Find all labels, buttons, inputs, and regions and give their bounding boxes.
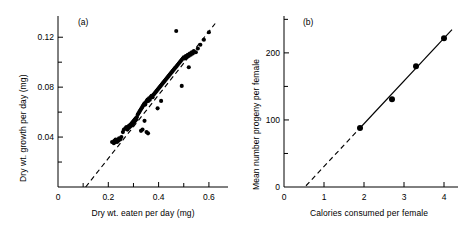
panel-b-x-ticks <box>324 182 444 187</box>
panel-a-tag: (a) <box>78 17 88 27</box>
panel-a-x-ticklabels: 00.20.40.6 <box>56 192 215 202</box>
panel-b-y-axis-title: Mean number progeny per female <box>251 59 261 190</box>
panel-a-y-ticklabels: 0.040.080.12 <box>37 32 54 142</box>
data-point <box>202 38 206 42</box>
panel-b-plot: 01234 0100200 <box>236 0 472 231</box>
panel-b-y-ticks <box>284 19 289 153</box>
panel-a-x-axis-title: Dry wt. eaten per day (mg) <box>48 208 238 218</box>
data-point <box>146 131 150 135</box>
data-point <box>187 65 191 69</box>
data-point <box>159 99 163 103</box>
panel-b-y-ticklabels: 0100200 <box>266 48 280 192</box>
data-point <box>194 50 198 54</box>
chart-panel-a: (a) 00.20.40.6 0.040.080.12 Dry wt. eate… <box>0 0 236 231</box>
data-point <box>413 63 419 69</box>
y-tick-label: 200 <box>266 48 280 58</box>
chart-panel-b: (b) 01234 0100200 Calories consumed per … <box>236 0 472 231</box>
y-tick-label: 100 <box>266 115 280 125</box>
panel-a-y-axis-title: Dry wt. growth per day (mg) <box>18 74 28 182</box>
data-point <box>441 35 447 41</box>
data-point <box>119 135 123 139</box>
panel-a-axes <box>58 16 228 187</box>
x-tick-label: 0 <box>56 192 61 202</box>
x-tick-label: 2 <box>362 192 367 202</box>
y-tick-label: 0.08 <box>37 82 54 92</box>
data-point <box>174 29 178 33</box>
panel-a-fit-line <box>86 23 216 187</box>
x-tick-label: 0 <box>282 192 287 202</box>
panel-b-fit-line <box>306 30 452 186</box>
y-tick-label: 0 <box>275 182 280 192</box>
y-tick-label: 0.04 <box>37 132 54 142</box>
data-point <box>196 46 200 50</box>
panel-b-x-axis-title: Calories consumed per female <box>274 208 464 218</box>
panel-a-plot: 00.20.40.6 0.040.080.12 <box>0 0 236 231</box>
x-tick-label: 0.6 <box>203 192 215 202</box>
data-point <box>207 30 211 34</box>
panel-a-x-ticks <box>83 182 209 187</box>
x-tick-label: 1 <box>322 192 327 202</box>
data-point <box>156 106 160 110</box>
data-point <box>142 119 146 123</box>
panel-a-y-ticks <box>58 37 63 162</box>
figure-container: (a) 00.20.40.6 0.040.080.12 Dry wt. eate… <box>0 0 472 231</box>
data-point <box>389 96 395 102</box>
data-point <box>357 125 363 131</box>
panel-b-axes <box>284 16 458 187</box>
x-tick-label: 4 <box>442 192 447 202</box>
x-tick-label: 0.2 <box>102 192 114 202</box>
data-point <box>180 84 184 88</box>
data-point <box>198 43 202 47</box>
x-tick-label: 3 <box>402 192 407 202</box>
data-point <box>140 128 144 132</box>
panel-a-data-points <box>110 29 211 145</box>
x-tick-label: 0.4 <box>153 192 165 202</box>
y-tick-label: 0.12 <box>37 32 54 42</box>
panel-b-x-ticklabels: 01234 <box>282 192 447 202</box>
panel-b-tag: (b) <box>303 17 313 27</box>
